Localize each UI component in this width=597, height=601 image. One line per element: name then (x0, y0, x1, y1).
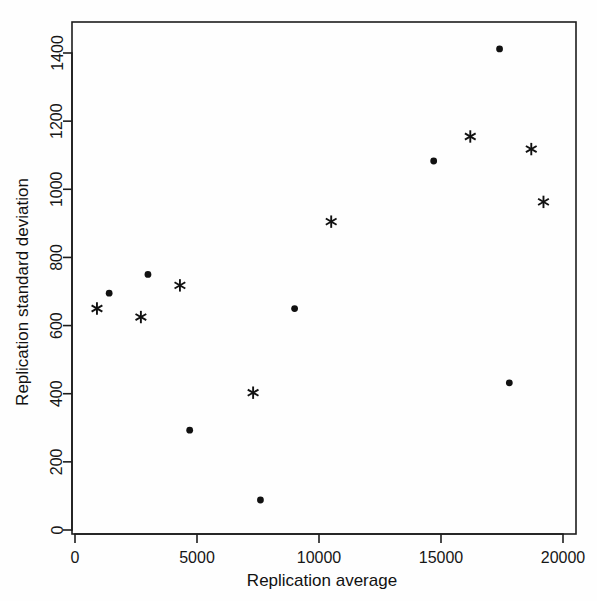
y-axis: 0200400600800100012001400 (49, 35, 73, 534)
x-axis: 05000100001500020000 (71, 534, 586, 566)
data-point-dot (106, 290, 113, 297)
data-point-dot (496, 46, 503, 53)
data-points (92, 46, 549, 504)
y-axis-tick-label: 200 (49, 448, 66, 475)
data-point-dot (506, 379, 513, 386)
data-point-dot (257, 497, 264, 504)
y-axis-tick-label: 600 (49, 312, 66, 339)
x-axis-tick-label: 15000 (419, 549, 464, 566)
data-point-asterisk (175, 279, 186, 291)
y-axis-tick-label: 1200 (49, 103, 66, 139)
data-point-dot (430, 158, 437, 165)
y-axis-tick-label: 400 (49, 380, 66, 407)
x-axis-tick-label: 0 (71, 549, 80, 566)
data-point-asterisk (326, 215, 337, 227)
x-axis-tick-label: 20000 (541, 549, 586, 566)
x-axis-tick-label: 10000 (297, 549, 342, 566)
data-point-asterisk (248, 386, 259, 398)
x-axis-title: Replication average (247, 571, 397, 590)
data-point-dot (291, 305, 298, 312)
data-point-asterisk (538, 196, 549, 208)
x-axis-tick-label: 5000 (179, 549, 215, 566)
figure-canvas: 05000100001500020000 0200400600800100012… (0, 0, 597, 601)
data-point-asterisk (92, 302, 103, 314)
data-point-dot (145, 271, 152, 278)
plot-box (72, 22, 576, 534)
data-point-asterisk (465, 130, 476, 142)
data-point-asterisk (136, 311, 147, 323)
data-point-asterisk (526, 143, 537, 155)
y-axis-tick-label: 800 (49, 244, 66, 271)
data-point-dot (186, 427, 193, 434)
y-axis-tick-label: 1000 (49, 171, 66, 207)
scatter-plot: 05000100001500020000 0200400600800100012… (0, 0, 597, 601)
y-axis-tick-label: 1400 (49, 35, 66, 71)
y-axis-tick-label: 0 (49, 525, 66, 534)
plot-frame (72, 22, 576, 534)
y-axis-title: Replication standard deviation (13, 178, 32, 406)
